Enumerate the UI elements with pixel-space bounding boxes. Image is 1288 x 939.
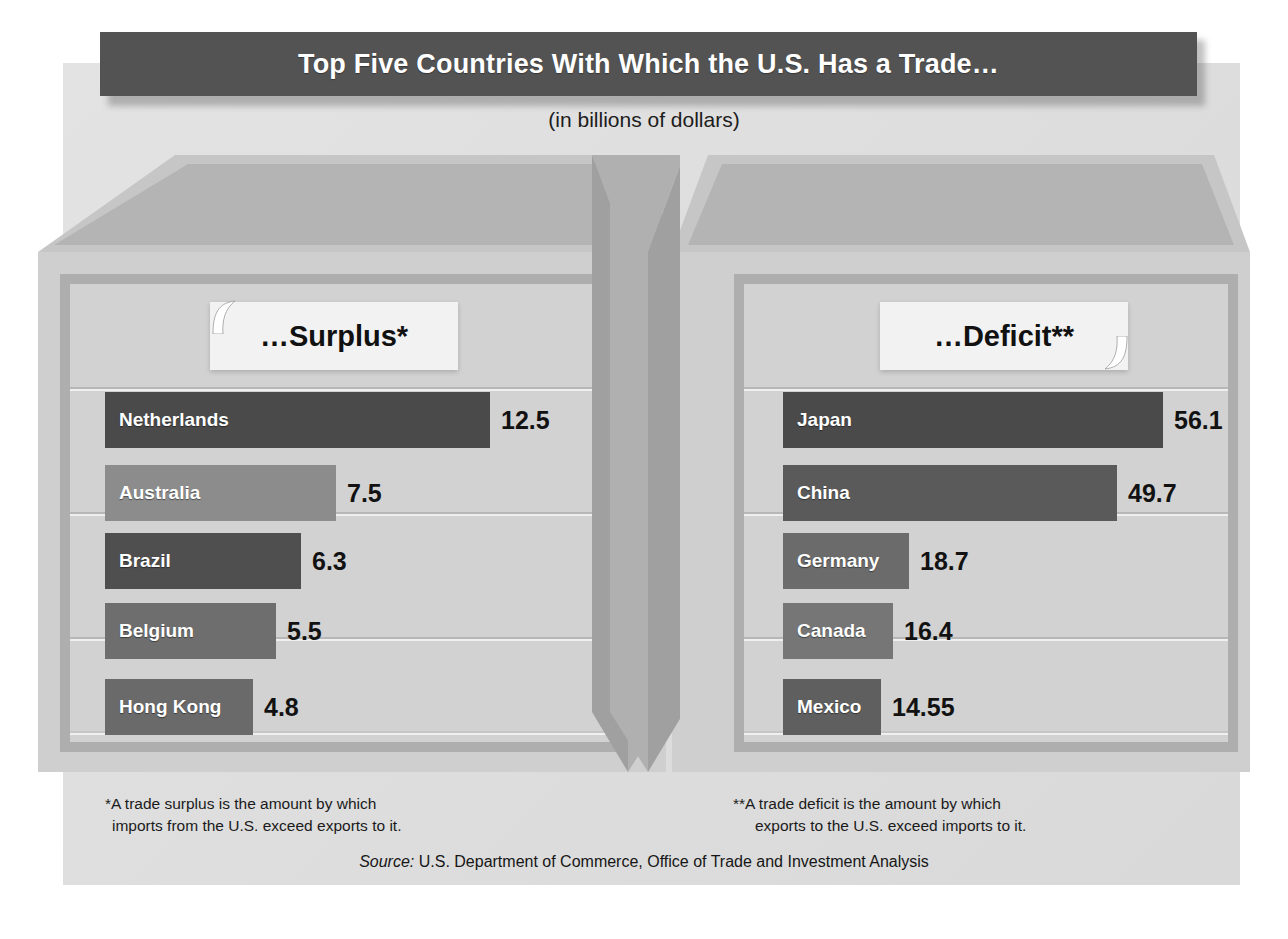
bar-row[interactable]: Netherlands 12.5	[105, 392, 550, 448]
bar-row[interactable]: Canada 16.4	[783, 603, 953, 659]
surplus-box-top-face	[38, 152, 666, 262]
bar-label: Mexico	[797, 696, 861, 718]
deficit-box-side-wall	[610, 152, 680, 792]
deficit-label: …Deficit**	[934, 320, 1074, 353]
page-title: Top Five Countries With Which the U.S. H…	[298, 49, 999, 80]
bar-label: Australia	[119, 482, 200, 504]
bar-row[interactable]: Brazil 6.3	[105, 533, 347, 589]
bar-value: 6.3	[312, 547, 347, 576]
bar-value: 14.55	[892, 693, 955, 722]
bar-germany[interactable]: Germany	[783, 533, 909, 589]
bar-hong-kong[interactable]: Hong Kong	[105, 679, 253, 735]
bar-belgium[interactable]: Belgium	[105, 603, 276, 659]
surplus-label: …Surplus*	[260, 320, 408, 353]
bar-value: 18.7	[920, 547, 969, 576]
deficit-label-plate: …Deficit**	[880, 302, 1128, 370]
bar-netherlands[interactable]: Netherlands	[105, 392, 490, 448]
bar-row[interactable]: Hong Kong 4.8	[105, 679, 299, 735]
surplus-footnote: *A trade surplus is the amount by which …	[105, 793, 525, 838]
page-curl-icon	[1103, 336, 1129, 370]
deficit-box-top-face	[672, 152, 1250, 262]
surplus-footnote-line1: *A trade surplus is the amount by which	[105, 795, 376, 812]
source-line: Source: U.S. Department of Commerce, Off…	[0, 853, 1288, 871]
deficit-footnote: **A trade deficit is the amount by which…	[733, 793, 1153, 838]
bar-value: 12.5	[501, 406, 550, 435]
bar-label: Canada	[797, 620, 866, 642]
bar-value: 5.5	[287, 617, 322, 646]
bar-row[interactable]: Japan 56.1	[783, 392, 1223, 448]
title-bar: Top Five Countries With Which the U.S. H…	[100, 32, 1197, 96]
bar-brazil[interactable]: Brazil	[105, 533, 301, 589]
surplus-footnote-line2: imports from the U.S. exceed exports to …	[105, 815, 525, 837]
source-text: U.S. Department of Commerce, Office of T…	[414, 853, 929, 870]
deficit-footnote-line2: exports to the U.S. exceed imports to it…	[733, 815, 1153, 837]
bar-canada[interactable]: Canada	[783, 603, 893, 659]
bar-row[interactable]: Germany 18.7	[783, 533, 969, 589]
deficit-box: …Deficit**	[672, 152, 1250, 772]
infographic-root: Top Five Countries With Which the U.S. H…	[0, 0, 1288, 939]
bar-australia[interactable]: Australia	[105, 465, 336, 521]
bar-row[interactable]: China 49.7	[783, 465, 1177, 521]
page-subtitle: (in billions of dollars)	[0, 108, 1288, 132]
bar-value: 16.4	[904, 617, 953, 646]
bar-row[interactable]: Belgium 5.5	[105, 603, 322, 659]
page-curl-icon	[211, 300, 237, 334]
bar-row[interactable]: Mexico 14.55	[783, 679, 955, 735]
bar-china[interactable]: China	[783, 465, 1117, 521]
bar-label: Brazil	[119, 550, 171, 572]
bar-japan[interactable]: Japan	[783, 392, 1163, 448]
bar-row[interactable]: Australia 7.5	[105, 465, 382, 521]
bar-label: Netherlands	[119, 409, 229, 431]
bar-label: Belgium	[119, 620, 194, 642]
deficit-footnote-line1: **A trade deficit is the amount by which	[733, 795, 1001, 812]
bar-label: China	[797, 482, 850, 504]
source-prefix: Source:	[359, 853, 414, 870]
bar-label: Germany	[797, 550, 879, 572]
bar-label: Japan	[797, 409, 852, 431]
bar-label: Hong Kong	[119, 696, 221, 718]
bar-value: 56.1	[1174, 406, 1223, 435]
bar-value: 49.7	[1128, 479, 1177, 508]
surplus-label-plate: …Surplus*	[210, 302, 458, 370]
bar-value: 7.5	[347, 479, 382, 508]
bar-value: 4.8	[264, 693, 299, 722]
panel-rule	[744, 387, 1228, 391]
panel-rule	[70, 387, 634, 391]
bar-mexico[interactable]: Mexico	[783, 679, 881, 735]
